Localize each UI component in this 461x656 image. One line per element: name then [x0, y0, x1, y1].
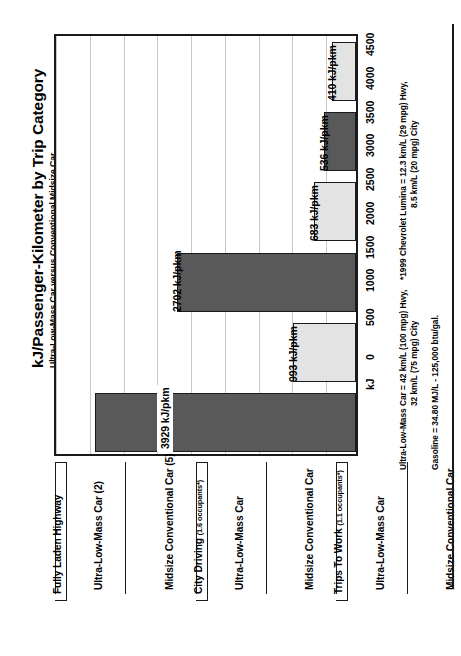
group-label-text-1: City Driving [193, 538, 204, 594]
tick-label-3500: 3500 [364, 100, 376, 123]
bar-value-label-4: 993 kJ/pkm [287, 326, 299, 382]
group-label-1: City Driving (1.6 occupants*) [193, 480, 204, 594]
tick-label-1000: 1000 [364, 269, 376, 292]
category-axis: * NPTS Average Occupancy Ultra-Low-Mass … [0, 456, 461, 656]
note-lumina-line2: 8.5 km/L (20 mpg) City [409, 120, 420, 280]
group-occupants-2: (1.1 occupants*) [335, 470, 344, 526]
bar-2 [314, 182, 356, 241]
plot-area: 410 kJ/pkm536 kJ/pkm683 kJ/pkm2702 kJ/pk… [54, 34, 358, 456]
category-label-2: Ultra-Low-Mass Car [234, 496, 245, 590]
group-label-2: Trips To Work (1.1 occupants*) [333, 470, 344, 594]
notes-divider-rule [452, 24, 454, 589]
gridline [259, 36, 260, 454]
tick-label-1500: 1500 [364, 235, 376, 258]
gridline [225, 36, 226, 454]
category-label-4: Ultra-Low-Mass Car [375, 496, 386, 590]
note-ulmc-line1: Ultra-Low-Mass Car = 42 km/L (100 mpg) H… [398, 290, 408, 470]
tick-label-4500: 4500 [364, 33, 376, 56]
category-label-3: Midsize Conventional Car [304, 468, 315, 590]
bar-value-label-5: 3929 kJ/pkm [157, 385, 173, 452]
bar-value-label-0: 410 kJ/pkm [326, 45, 338, 101]
bar-value-label-3: 2702 kJ/pkm [171, 250, 183, 311]
tick-label-4000: 4000 [364, 66, 376, 89]
category-label-1: Midsize Conventional Car (5) [164, 454, 175, 590]
category-separator-1 [125, 462, 126, 594]
note-lumina-line1: *1999 Chevrolet Lumina = 12.3 km/L (29 m… [398, 81, 408, 280]
note-chevrolet-lumina: *1999 Chevrolet Lumina = 12.3 km/L (29 m… [398, 81, 419, 280]
category-label-0: Ultra-Low-Mass Car (2) [93, 481, 104, 590]
group-occupants-1: (1.6 occupants*) [195, 480, 204, 536]
axis-unit-label: kJ [364, 378, 376, 390]
bar-4 [293, 323, 356, 382]
category-separator-3 [266, 462, 267, 594]
note-gasoline: Gasoline = 34.80 MJ/L - 125,000 btu/gal. [430, 315, 440, 470]
tick-label-500: 500 [364, 309, 376, 327]
bar-5 [95, 393, 356, 452]
tick-label-0: 0 [364, 354, 376, 360]
tick-label-2000: 2000 [364, 202, 376, 225]
note-ultra-low-mass-car: Ultra-Low-Mass Car = 42 km/L (100 mpg) H… [398, 290, 440, 470]
bar-3 [177, 253, 356, 312]
bar-value-label-1: 536 kJ/pkm [318, 115, 330, 171]
note-ulmc-line2: 32 km/L (75 mpg) City [409, 321, 420, 470]
group-label-text-2: Trips To Work [333, 528, 344, 594]
plot-inner: 410 kJ/pkm536 kJ/pkm683 kJ/pkm2702 kJ/pk… [56, 36, 356, 454]
tick-label-3000: 3000 [364, 134, 376, 157]
gridline [124, 36, 125, 454]
bar-value-label-2: 683 kJ/pkm [308, 186, 320, 242]
group-label-0: Fully Laden Highway [52, 495, 63, 594]
tick-label-2500: 2500 [364, 168, 376, 191]
gridline [292, 36, 293, 454]
gridline [191, 36, 192, 454]
chart-container: kJ/Passenger-Kilometer by Trip Category … [0, 0, 461, 656]
gridline [90, 36, 91, 454]
gridline [56, 36, 57, 454]
page-title: kJ/Passenger-Kilometer by Trip Category [30, 69, 46, 368]
group-label-text-0: Fully Laden Highway [52, 495, 63, 594]
value-axis: 050010001500200025003000350040004500kJ [358, 34, 400, 464]
